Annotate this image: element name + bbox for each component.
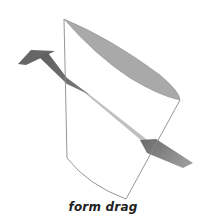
flow-arrow bbox=[18, 50, 193, 168]
cylinder-top-surface bbox=[64, 19, 180, 100]
form-drag-diagram: form drag bbox=[0, 0, 206, 222]
diagram-illustration bbox=[0, 0, 206, 222]
arrow-shaft-back bbox=[38, 53, 90, 95]
cylinder-body bbox=[64, 19, 180, 199]
arrow-streak bbox=[67, 78, 150, 146]
diagram-caption: form drag bbox=[0, 200, 206, 214]
arrow-shaft-front bbox=[140, 139, 193, 168]
